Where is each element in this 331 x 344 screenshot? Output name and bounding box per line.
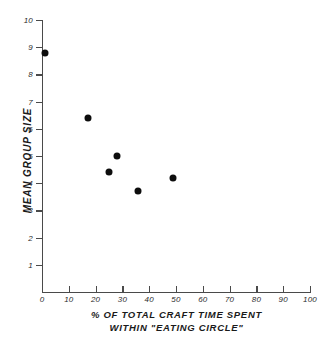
y-tick-mark [36, 129, 42, 130]
x-tick-mark [149, 286, 150, 292]
y-tick-mark [36, 238, 42, 239]
x-tick-mark [283, 286, 284, 292]
x-tick-label: 40 [145, 295, 154, 304]
x-tick-mark [42, 286, 43, 292]
y-axis-title: MEAN GROUP SIZE [22, 71, 33, 251]
y-tick-mark [36, 102, 42, 103]
x-tick-label: 100 [303, 295, 317, 304]
x-tick-label: 30 [118, 295, 127, 304]
x-axis-title-line-1: % OF TOTAL CRAFT TIME SPENT [42, 308, 311, 321]
y-tick-mark [36, 210, 42, 211]
x-tick-label: 20 [91, 295, 100, 304]
scatter-plot-figure: 12345678910 0102030405060708090100 MEAN … [0, 0, 331, 344]
x-tick-label: 60 [198, 295, 207, 304]
x-tick-label: 10 [64, 295, 73, 304]
y-tick-mark [36, 74, 42, 75]
y-tick-mark [36, 156, 42, 157]
y-tick-mark [36, 47, 42, 48]
data-point [135, 188, 142, 195]
y-tick-mark [36, 20, 42, 21]
y-tick-mark [36, 265, 42, 266]
x-tick-label: 80 [252, 295, 261, 304]
x-axis-title-line-2: WITHIN "EATING CIRCLE" [42, 321, 311, 334]
x-tick-mark [230, 286, 231, 292]
x-tick-mark [122, 286, 123, 292]
data-point [84, 114, 91, 121]
x-tick-mark [96, 286, 97, 292]
data-point [170, 174, 177, 181]
x-tick-mark [256, 286, 257, 292]
y-tick-label: 10 [14, 16, 33, 25]
data-point [41, 49, 48, 56]
x-tick-label: 90 [279, 295, 288, 304]
x-axis-title: % OF TOTAL CRAFT TIME SPENT WITHIN "EATI… [42, 308, 311, 334]
y-tick-label: 1 [14, 260, 33, 269]
x-tick-mark [310, 286, 311, 292]
data-point [114, 153, 121, 160]
x-tick-mark [203, 286, 204, 292]
x-tick-mark [69, 286, 70, 292]
x-tick-label: 50 [171, 295, 180, 304]
x-tick-mark [176, 286, 177, 292]
x-tick-label: 70 [225, 295, 234, 304]
y-axis-line [42, 20, 43, 293]
data-point [106, 169, 113, 176]
x-tick-label: 0 [40, 295, 45, 304]
y-tick-label: 9 [14, 43, 33, 52]
y-tick-mark [36, 183, 42, 184]
